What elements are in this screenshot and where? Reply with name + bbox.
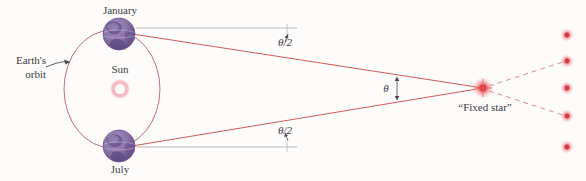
parallax-diagram: January July Sun Earth's orbit θ/2 θ/2 θ… (0, 0, 586, 181)
background-star (560, 140, 574, 154)
dashed-projection-upper (489, 61, 566, 86)
label-july: July (85, 163, 155, 176)
background-star (560, 81, 574, 95)
label-earths-orbit-line1: Earth's (0, 54, 46, 67)
label-theta: θ (378, 82, 394, 95)
background-star (560, 54, 574, 68)
label-theta-half-bottom: θ/2 (262, 124, 308, 137)
fixed-star-icon (472, 77, 494, 99)
sight-line-july (126, 88, 483, 147)
background-stars-group (560, 28, 574, 154)
theta-arrowhead-up (395, 77, 400, 82)
background-star (560, 28, 574, 42)
earth-july-icon (102, 130, 136, 162)
earth-orbit-leader-arrowhead (64, 60, 70, 65)
label-earths-orbit-line2: orbit (0, 68, 46, 81)
background-star (560, 109, 574, 123)
label-theta-half-top: θ/2 (262, 36, 308, 49)
earth-january-icon (102, 18, 136, 51)
theta-arrowhead-down (395, 96, 400, 101)
label-fixed-star: “Fixed star” (440, 101, 530, 114)
sun-icon (114, 83, 126, 95)
diagram-canvas (0, 0, 586, 181)
label-january: January (85, 4, 155, 17)
label-sun: Sun (97, 63, 143, 76)
